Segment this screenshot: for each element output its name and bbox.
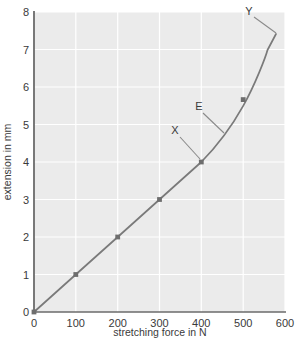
data-point-400: [199, 160, 204, 165]
data-point-500: [241, 97, 246, 102]
data-point-200: [115, 235, 120, 240]
annotation-label-x: X: [171, 124, 179, 136]
x-tick-label-100: 100: [67, 317, 85, 329]
y-tick-label-5: 5: [23, 119, 29, 131]
x-axis-title: stretching force in N: [113, 326, 206, 338]
y-tick-label-7: 7: [23, 44, 29, 56]
annotation-label-y: Y: [245, 5, 253, 17]
data-point-300: [157, 197, 162, 202]
data-point-0: [32, 310, 37, 315]
y-tick-label-1: 1: [23, 269, 29, 281]
y-tick-label-6: 6: [23, 81, 29, 93]
data-point-100: [73, 272, 78, 277]
y-tick-label-3: 3: [23, 194, 29, 206]
x-tick-label-500: 500: [234, 317, 252, 329]
y-tick-label-8: 8: [23, 6, 29, 18]
extension-force-chart: X E Y 0 1 2 3 4 5 6 7 8 0 100 200 300 40…: [0, 0, 300, 338]
y-tick-labels: 0 1 2 3 4 5 6 7 8: [23, 6, 29, 318]
x-tick-label-0: 0: [31, 317, 37, 329]
annotation-label-e: E: [195, 100, 202, 112]
y-axis-title: extension in mm: [1, 124, 13, 201]
y-tick-label-2: 2: [23, 231, 29, 243]
x-tick-label-600: 600: [276, 317, 294, 329]
y-tick-label-4: 4: [23, 156, 29, 168]
y-tick-label-0: 0: [23, 306, 29, 318]
